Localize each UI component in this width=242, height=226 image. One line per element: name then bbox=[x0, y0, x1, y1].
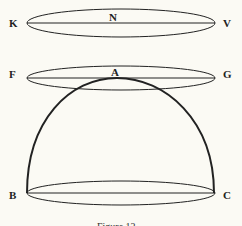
figure-caption: Figure 12 bbox=[97, 221, 136, 226]
geometry-figure: K N V F A G B C Figure 12 bbox=[0, 0, 242, 226]
label-g: G bbox=[223, 68, 232, 80]
label-a: A bbox=[111, 66, 119, 78]
label-v: V bbox=[223, 17, 231, 29]
label-n: N bbox=[109, 11, 117, 23]
label-c: C bbox=[223, 189, 231, 201]
label-k: K bbox=[9, 17, 18, 29]
label-b: B bbox=[9, 189, 17, 201]
label-f: F bbox=[9, 68, 16, 80]
arc-bac bbox=[27, 78, 214, 193]
